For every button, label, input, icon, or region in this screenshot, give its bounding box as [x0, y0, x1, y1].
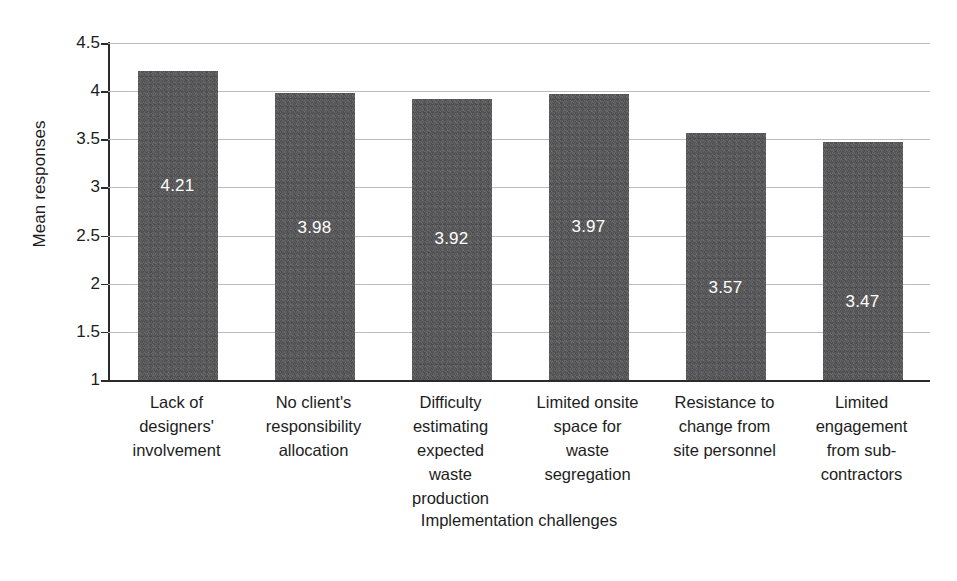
x-axis-baseline [108, 380, 930, 382]
y-axis-tick [101, 284, 108, 286]
bar-value-label: 3.47 [823, 292, 903, 312]
category-label-line: No client's [247, 390, 380, 414]
bar: 3.47 [823, 142, 903, 380]
category-label-line: Resistance to [658, 390, 791, 414]
gridline [108, 332, 930, 333]
x-axis-category-labels: Lack ofdesigners'involvementNo client'sr… [108, 390, 930, 515]
caption-remnant [28, 572, 648, 581]
plot-area: 4.213.983.923.973.573.47 [108, 43, 930, 380]
category-label-line: production [384, 486, 517, 510]
category-label-line: site personnel [658, 438, 791, 462]
category-label-line: change from [658, 414, 791, 438]
category-label-line: waste [384, 462, 517, 486]
y-axis-tick-labels: 11.522.533.544.5 [48, 43, 100, 380]
gridline [108, 139, 930, 140]
category-label-line: engagement [795, 414, 928, 438]
bar-chart-figure: Mean responses 11.522.533.544.5 4.213.98… [0, 0, 957, 581]
y-axis-tick [101, 139, 108, 141]
bar-value-label: 3.98 [275, 218, 355, 238]
x-axis-category-label: Lack ofdesigners'involvement [110, 390, 243, 462]
bar: 3.97 [549, 94, 629, 380]
bar: 3.98 [275, 93, 355, 380]
x-axis-category-label: Limited onsitespace forwastesegregation [521, 390, 654, 486]
category-label-line: expected [384, 438, 517, 462]
y-axis-tick-label: 2.5 [76, 226, 100, 246]
x-axis-category-label: Resistance tochange fromsite personnel [658, 390, 791, 462]
y-axis-tick-label: 2 [91, 274, 100, 294]
y-axis-tick [101, 43, 108, 45]
category-label-line: segregation [521, 462, 654, 486]
category-label-line: designers' [110, 414, 243, 438]
y-axis-tick-label: 3 [91, 177, 100, 197]
category-label-line: contractors [795, 462, 928, 486]
category-label-line: Difficulty [384, 390, 517, 414]
x-axis-category-label: Limitedengagementfrom sub-contractors [795, 390, 928, 486]
y-axis-tick-label: 3.5 [76, 129, 100, 149]
x-axis-category-label: Difficultyestimatingexpectedwasteproduct… [384, 390, 517, 510]
bar: 3.92 [412, 99, 492, 380]
gridline [108, 43, 930, 44]
y-axis-tick-label: 4.5 [76, 33, 100, 53]
gridline [108, 236, 930, 237]
bar-value-label: 3.57 [686, 278, 766, 298]
gridline [108, 284, 930, 285]
category-label-line: from sub- [795, 438, 928, 462]
y-axis-tick-label: 1.5 [76, 322, 100, 342]
bar-value-label: 4.21 [138, 176, 218, 196]
bar: 3.57 [686, 133, 766, 380]
category-label-line: responsibility [247, 414, 380, 438]
y-axis-tick [101, 236, 108, 238]
gridline [108, 91, 930, 92]
y-axis-title: Mean responses [30, 64, 50, 304]
category-label-line: allocation [247, 438, 380, 462]
category-label-line: Lack of [110, 390, 243, 414]
category-label-line: Limited onsite [521, 390, 654, 414]
gridline [108, 187, 930, 188]
y-axis-tick [101, 91, 108, 93]
category-label-line: waste [521, 438, 654, 462]
y-axis-tick-label: 4 [91, 81, 100, 101]
bar-value-label: 3.92 [412, 229, 492, 249]
y-axis-tick [101, 380, 108, 382]
category-label-line: space for [521, 414, 654, 438]
y-axis-tick [101, 187, 108, 189]
bar-value-label: 3.97 [549, 217, 629, 237]
x-axis-category-label: No client'sresponsibilityallocation [247, 390, 380, 462]
x-axis-title: Implementation challenges [108, 511, 930, 530]
category-label-line: involvement [110, 438, 243, 462]
category-label-line: estimating [384, 414, 517, 438]
y-axis-tick [101, 332, 108, 334]
bar: 4.21 [138, 71, 218, 380]
y-axis-tick-label: 1 [91, 370, 100, 390]
category-label-line: Limited [795, 390, 928, 414]
